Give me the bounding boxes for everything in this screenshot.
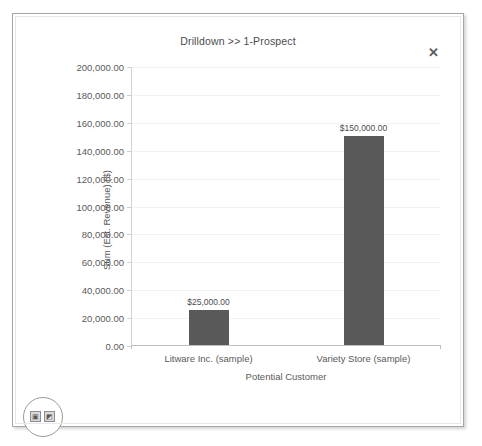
x-axis-title: Potential Customer: [131, 371, 441, 382]
y-axis-tick: [127, 95, 131, 96]
bar-value-label: $150,000.00: [340, 123, 387, 133]
y-axis-tick-label: 0.00: [106, 341, 125, 352]
gridline: [132, 290, 441, 291]
y-axis-tick: [127, 151, 131, 152]
chart-icon-glyph: ◩: [46, 413, 53, 420]
gridline: [132, 179, 441, 180]
y-axis-title: Sum (Est. Revenue) ($): [101, 170, 112, 270]
y-axis-tick-label: 140,000.00: [76, 145, 124, 156]
gridline: [132, 95, 441, 96]
y-axis-tick-label: 120,000.00: [76, 173, 124, 184]
y-axis-tick: [127, 207, 131, 208]
badge-circle: [23, 397, 63, 437]
gridline: [132, 262, 441, 263]
gridline: [132, 318, 441, 319]
badge-cluster: ▣ ◩: [23, 397, 65, 439]
y-axis-tick: [127, 179, 131, 180]
y-axis-tick-label: 200,000.00: [76, 62, 124, 73]
y-axis-tick: [127, 67, 131, 68]
x-axis-tick-label: Variety Store (sample): [317, 353, 411, 364]
image-icon-glyph: ▣: [32, 413, 39, 420]
x-axis-line: [131, 345, 441, 346]
y-axis-tick-label: 60,000.00: [82, 257, 124, 268]
chart-title: Drilldown >> 1-Prospect: [13, 35, 463, 47]
y-axis-tick-label: 40,000.00: [82, 285, 124, 296]
chart-icon[interactable]: ◩: [44, 411, 55, 422]
y-axis-tick: [127, 123, 131, 124]
y-axis-tick: [127, 346, 131, 347]
y-axis-tick-label: 160,000.00: [76, 117, 124, 128]
y-axis-tick-label: 20,000.00: [82, 313, 124, 324]
y-axis-tick-label: 100,000.00: [76, 201, 124, 212]
y-axis-tick: [127, 234, 131, 235]
bar[interactable]: [189, 310, 229, 345]
plot-area: 0.0020,000.0040,000.0060,000.0080,000.00…: [131, 67, 441, 346]
y-axis-tick: [127, 318, 131, 319]
gridline: [132, 67, 441, 68]
gridline: [132, 207, 441, 208]
x-axis-tick-label: Litware Inc. (sample): [164, 353, 252, 364]
x-axis-endcap-left: [131, 345, 132, 349]
image-icon[interactable]: ▣: [30, 411, 41, 422]
chart-window: Drilldown >> 1-Prospect ✕ Sum (Est. Reve…: [12, 13, 464, 427]
y-axis-tick-label: 80,000.00: [82, 229, 124, 240]
close-icon[interactable]: ✕: [425, 45, 441, 61]
gridline: [132, 151, 441, 152]
gridline: [132, 123, 441, 124]
y-axis-tick: [127, 262, 131, 263]
x-axis-endcap-right: [440, 345, 441, 349]
bar-value-label: $25,000.00: [187, 297, 230, 307]
bar[interactable]: [344, 136, 384, 345]
y-axis-tick: [127, 290, 131, 291]
gridline: [132, 234, 441, 235]
y-axis-tick-label: 180,000.00: [76, 89, 124, 100]
